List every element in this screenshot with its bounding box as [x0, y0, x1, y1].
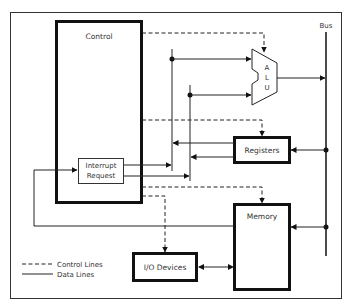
io-devices-label: I/O Devices	[144, 263, 187, 272]
control-line-to-io	[142, 196, 165, 252]
legend-control-lines-label: Control Lines	[57, 261, 103, 269]
interrupt-label-line2: Request	[87, 172, 116, 180]
alu-letter-a: A	[265, 64, 270, 72]
control-line-to-alu	[142, 33, 264, 52]
registers-label: Registers	[245, 146, 280, 155]
arrow-head-left	[198, 264, 204, 270]
control-line-to-memory	[142, 187, 262, 203]
interrupt-label-line1: Interrupt	[86, 162, 117, 170]
alu-letter-l: L	[265, 74, 269, 82]
alu-letter-u: U	[264, 84, 269, 92]
control-line-to-registers	[142, 120, 262, 136]
bus-label: Bus	[320, 22, 333, 30]
control-label: Control	[85, 32, 112, 41]
cpu-block-diagram: Control Interrupt Request Bus A L U Regi…	[0, 0, 351, 308]
memory-label: Memory	[247, 212, 278, 221]
legend-data-lines-label: Data Lines	[57, 271, 95, 279]
